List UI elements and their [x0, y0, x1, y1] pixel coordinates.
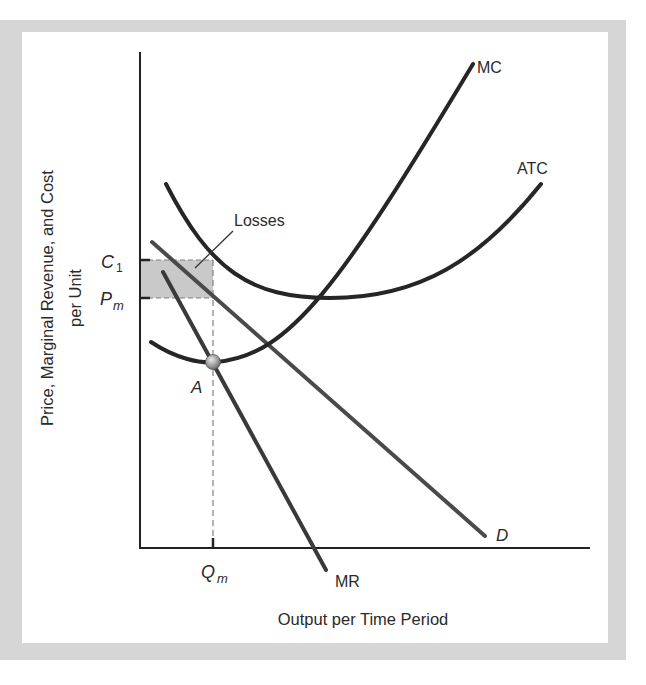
x-axis-title: Output per Time Period	[278, 610, 449, 628]
monopoly-diagram: MC ATC D MR Losses A C1 Pm Qm Price, Mar…	[0, 0, 646, 685]
losses-label: Losses	[234, 212, 285, 229]
y-axis-title-line1: Price, Marginal Revenue, and Cost	[38, 170, 56, 426]
losses-leader-line	[195, 231, 233, 268]
pm-label: Pm	[100, 289, 124, 313]
point-a-marker	[206, 355, 221, 370]
mr-label: MR	[335, 573, 360, 590]
qm-label: Qm	[201, 562, 228, 586]
y-axis-title-line2: per Unit	[66, 269, 84, 327]
atc-label: ATC	[517, 160, 548, 177]
c1-label: C1	[101, 252, 123, 275]
mc-label: MC	[477, 59, 502, 76]
point-a-label: A	[190, 378, 202, 397]
marginal-cost-curve	[151, 64, 473, 362]
d-label: D	[496, 526, 508, 545]
